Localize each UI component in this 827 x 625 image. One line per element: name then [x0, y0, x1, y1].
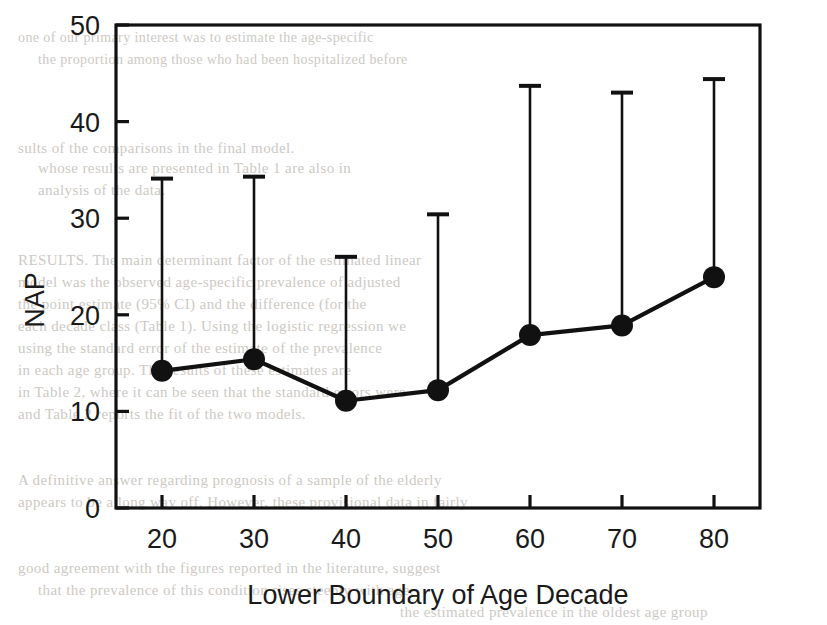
data-point-marker: [703, 266, 725, 288]
y-axis-ticks: 01020304050: [70, 11, 129, 524]
y-tick-label: 50: [70, 11, 100, 41]
data-point-marker: [243, 348, 265, 370]
y-tick-label: 0: [85, 494, 100, 524]
error-bars: [151, 79, 725, 401]
y-tick-label: 40: [70, 108, 100, 138]
data-point-marker: [151, 360, 173, 382]
x-tick-label: 40: [331, 524, 361, 554]
y-tick-label: 20: [70, 301, 100, 331]
figure-nap-vs-age-decade: 01020304050 20304050607080 NAP Lower Bou…: [0, 0, 827, 625]
x-tick-label: 60: [515, 524, 545, 554]
x-tick-label: 80: [699, 524, 729, 554]
y-tick-label: 30: [70, 204, 100, 234]
x-axis-ticks: 20304050607080: [147, 495, 729, 554]
data-point-marker: [611, 314, 633, 336]
x-tick-label: 50: [423, 524, 453, 554]
chart-svg: 01020304050 20304050607080 NAP Lower Bou…: [0, 0, 827, 625]
y-tick-label: 10: [70, 397, 100, 427]
x-tick-label: 30: [239, 524, 269, 554]
data-point-marker: [427, 379, 449, 401]
x-axis-title: Lower Boundary of Age Decade: [247, 580, 628, 610]
x-tick-label: 20: [147, 524, 177, 554]
data-point-marker: [519, 324, 541, 346]
y-axis-title: NAP: [20, 272, 50, 328]
data-point-marker: [335, 390, 357, 412]
x-tick-label: 70: [607, 524, 637, 554]
